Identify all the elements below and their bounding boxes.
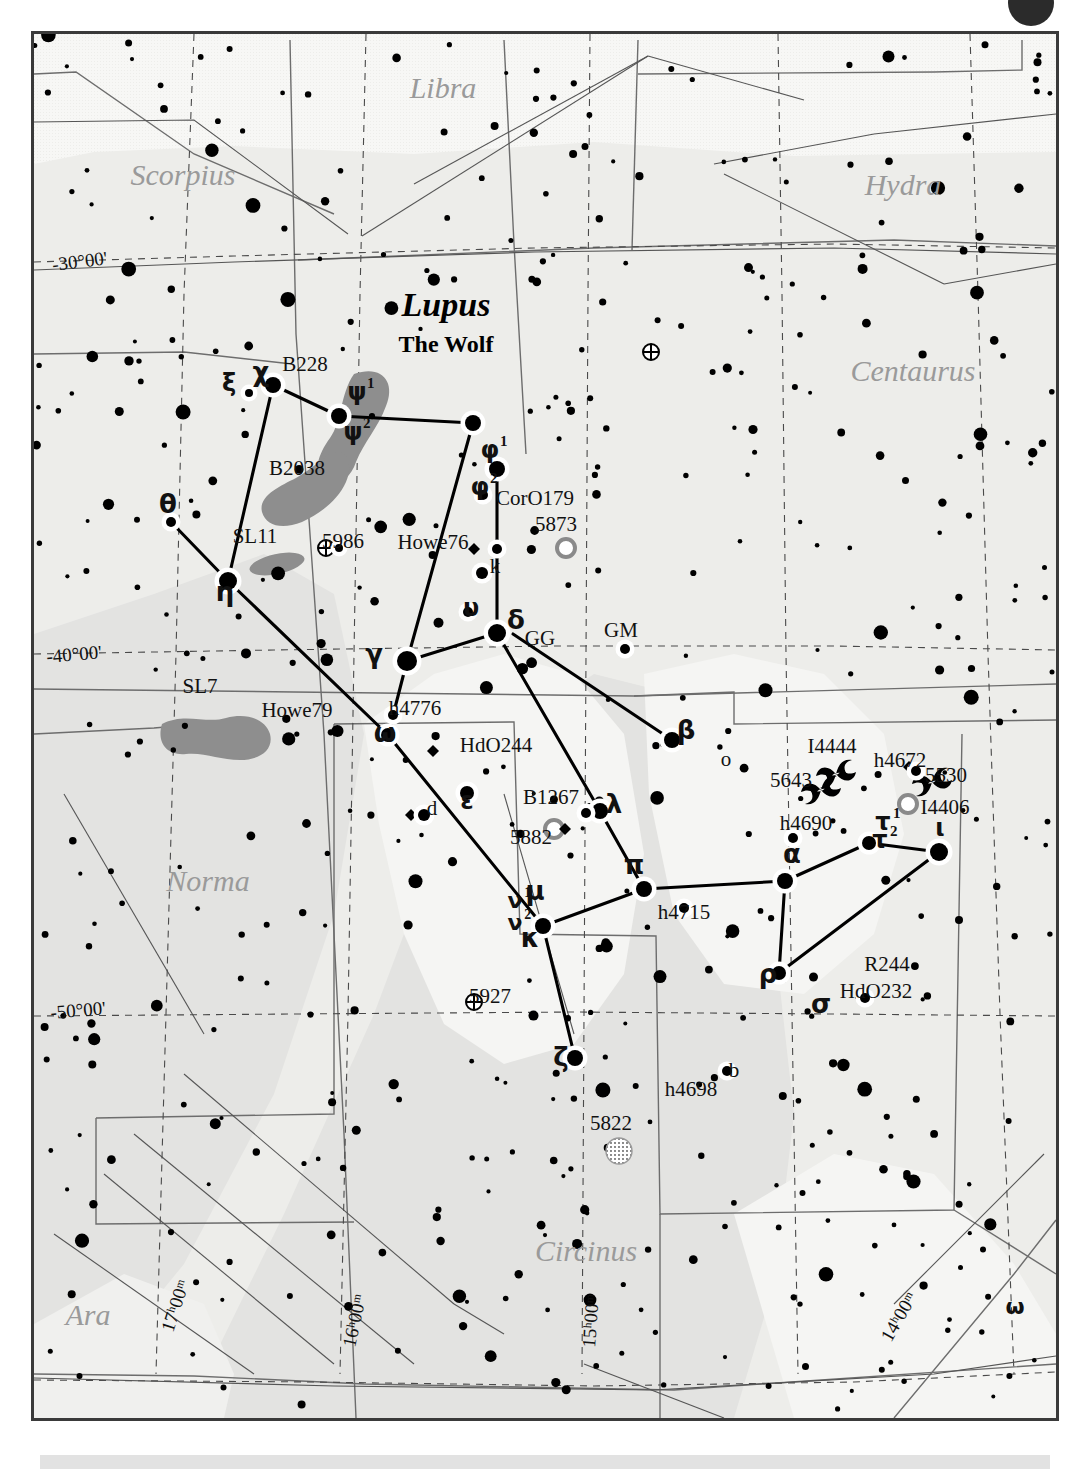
field-star xyxy=(588,1010,593,1015)
greek-star-label: η xyxy=(216,577,235,607)
field-star xyxy=(135,585,141,591)
field-star xyxy=(241,408,245,412)
field-star xyxy=(592,472,598,478)
field-star xyxy=(621,1282,626,1287)
svg-text:b: b xyxy=(729,1058,740,1082)
field-star xyxy=(635,172,643,180)
field-star xyxy=(561,1174,565,1178)
svg-text:1: 1 xyxy=(367,375,375,391)
field-star xyxy=(565,400,571,406)
field-star xyxy=(69,189,74,194)
field-star xyxy=(918,913,924,919)
field-star xyxy=(125,39,132,46)
object-label: b xyxy=(729,1058,740,1082)
object-label: Howe79 xyxy=(261,698,332,722)
field-star xyxy=(792,384,798,390)
svg-text:τ: τ xyxy=(872,826,887,854)
field-star xyxy=(689,1255,698,1264)
field-star xyxy=(790,281,795,286)
field-star xyxy=(599,298,606,305)
svg-text:λ: λ xyxy=(606,789,622,819)
field-star xyxy=(1006,1373,1012,1379)
field-star xyxy=(722,1224,728,1230)
field-star xyxy=(158,82,164,88)
field-star xyxy=(444,215,450,221)
field-star xyxy=(595,568,601,574)
field-star xyxy=(975,233,983,241)
field-star xyxy=(1045,819,1051,825)
field-star xyxy=(89,1200,97,1208)
field-star xyxy=(650,791,664,805)
neighbor-constellation-label: Hydra xyxy=(864,168,942,201)
field-star xyxy=(1012,933,1018,939)
field-star xyxy=(690,77,695,82)
field-star xyxy=(459,452,464,457)
field-star xyxy=(451,276,457,282)
field-star xyxy=(87,722,92,727)
neighbor-constellation-label: Libra xyxy=(409,71,477,104)
object-label: 5927 xyxy=(469,984,511,1008)
greek-star-label: ρ xyxy=(759,959,778,989)
greek-star-label: ι xyxy=(935,814,944,842)
svg-text:ω: ω xyxy=(374,718,397,748)
field-star xyxy=(190,1352,195,1357)
field-star xyxy=(36,363,41,368)
field-star xyxy=(78,872,82,876)
field-star xyxy=(87,351,99,363)
field-star xyxy=(508,238,513,243)
svg-text:GG: GG xyxy=(525,626,555,650)
field-star xyxy=(592,490,601,499)
field-star xyxy=(88,1061,96,1069)
svg-text:ψ: ψ xyxy=(347,378,366,406)
field-star xyxy=(976,442,985,451)
field-star xyxy=(764,296,769,301)
field-star xyxy=(819,1267,834,1282)
field-star xyxy=(182,723,188,729)
field-star xyxy=(960,247,968,255)
field-star xyxy=(1042,565,1047,570)
greek-star-label: υ xyxy=(463,594,479,622)
field-star xyxy=(745,473,750,478)
field-star xyxy=(424,268,429,273)
field-star xyxy=(774,1183,778,1187)
field-star xyxy=(370,597,379,606)
field-star xyxy=(483,768,489,774)
svg-text:h4690: h4690 xyxy=(780,811,833,835)
field-star xyxy=(639,1307,644,1312)
field-star xyxy=(447,42,452,47)
field-star xyxy=(280,91,285,96)
field-star xyxy=(328,1098,336,1106)
field-star xyxy=(294,732,299,737)
field-star xyxy=(913,1096,920,1103)
planetary-nebula-icon xyxy=(557,539,575,557)
field-star xyxy=(1048,91,1053,96)
greek-star-label: β xyxy=(677,715,696,745)
field-star xyxy=(955,594,962,601)
svg-text:ψ: ψ xyxy=(343,418,362,446)
field-star xyxy=(106,295,115,304)
object-label: k xyxy=(490,554,501,578)
svg-text:γ: γ xyxy=(365,639,383,669)
field-star xyxy=(748,425,757,434)
field-star xyxy=(227,1259,233,1265)
svg-text:ζ: ζ xyxy=(553,1042,568,1072)
greek-star-label: χ xyxy=(253,357,270,387)
svg-text:Lupus: Lupus xyxy=(401,286,491,323)
planetary-nebula-icon xyxy=(899,795,917,813)
named-star xyxy=(461,411,486,436)
field-star xyxy=(75,1234,89,1248)
field-star xyxy=(861,785,867,791)
field-star xyxy=(847,162,853,168)
field-star xyxy=(841,828,847,834)
neighbor-constellation-label: Norma xyxy=(165,864,249,897)
field-star xyxy=(316,1157,321,1162)
object-label: HdO244 xyxy=(460,733,533,757)
field-star xyxy=(242,431,249,438)
field-star xyxy=(357,585,361,589)
field-star xyxy=(798,796,803,801)
field-star xyxy=(533,96,539,102)
field-star xyxy=(545,1308,550,1313)
field-star xyxy=(210,1118,221,1129)
field-star xyxy=(501,764,506,769)
svg-text:φ: φ xyxy=(471,473,490,501)
